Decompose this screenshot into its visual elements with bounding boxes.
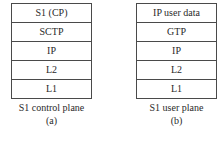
layer-l2: L2 bbox=[12, 60, 91, 79]
layer-l1: L1 bbox=[137, 79, 216, 98]
layer-l1: L1 bbox=[12, 79, 91, 98]
protocol-stack-box: S1 (CP) SCTP IP L2 L1 bbox=[11, 3, 92, 99]
caption-label: (b) bbox=[136, 114, 217, 127]
caption-title: S1 control plane bbox=[11, 101, 92, 114]
layer-l2: L2 bbox=[137, 60, 216, 79]
layer-s1-cp: S1 (CP) bbox=[12, 4, 91, 22]
s1-user-plane-stack: IP user data GTP IP L2 L1 S1 user plane … bbox=[136, 3, 217, 127]
caption-title: S1 user plane bbox=[136, 101, 217, 114]
layer-sctp: SCTP bbox=[12, 22, 91, 41]
layer-ip-user-data: IP user data bbox=[137, 4, 216, 22]
layer-ip: IP bbox=[137, 41, 216, 60]
layer-ip: IP bbox=[12, 41, 91, 60]
s1-control-plane-stack: S1 (CP) SCTP IP L2 L1 S1 control plane (… bbox=[11, 3, 92, 127]
protocol-stack-box: IP user data GTP IP L2 L1 bbox=[136, 3, 217, 99]
caption-label: (a) bbox=[11, 114, 92, 127]
layer-gtp: GTP bbox=[137, 22, 216, 41]
